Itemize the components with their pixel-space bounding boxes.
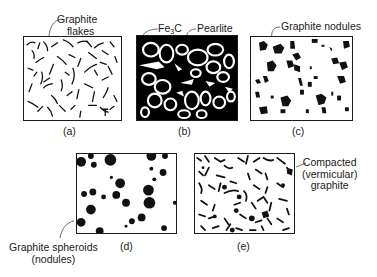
- annotation-graphite-spheroids: Graphite spheroids (nodules): [9, 241, 98, 265]
- panel-c-graphite-nodules: [250, 36, 353, 121]
- caption-e: (e): [237, 240, 250, 252]
- annotation-line-3: graphite: [302, 180, 357, 192]
- graphite-nodules-micrograph: [251, 37, 352, 120]
- compacted-graphite-micrograph: [195, 154, 294, 233]
- annotation-line-1: Graphite: [57, 13, 97, 25]
- caption-d: (d): [120, 240, 133, 252]
- caption-c: (c): [292, 125, 304, 137]
- annotation-line-2: (nodules): [9, 253, 98, 265]
- graphite-flakes-micrograph: [24, 37, 121, 120]
- panel-d-graphite-spheroids: [76, 153, 177, 234]
- caption-b: (b): [178, 125, 191, 137]
- annotation-compacted-graphite: Compacted (vermicular) graphite: [302, 157, 357, 192]
- graphite-spheroids-micrograph: [77, 154, 176, 233]
- fe3c-base: Fe: [158, 22, 170, 34]
- fe3c-tail: C: [174, 22, 182, 34]
- annotation-pearlite: Pearlite: [197, 22, 233, 34]
- white-cast-iron-micrograph: [137, 36, 237, 120]
- annotation-line-1: Graphite spheroids: [9, 241, 98, 253]
- annotation-graphite-flakes: Graphite flakes: [57, 13, 97, 37]
- caption-a: (a): [63, 125, 76, 137]
- panel-a-graphite-flakes: [23, 36, 122, 121]
- annotation-line-1: Compacted: [302, 157, 357, 169]
- panel-e-compacted-graphite: [194, 153, 295, 234]
- panel-b-white-cast-iron: [136, 35, 238, 121]
- annotation-graphite-nodules: Graphite nodules: [281, 20, 361, 32]
